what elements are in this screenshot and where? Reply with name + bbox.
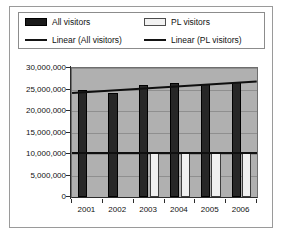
gridline xyxy=(72,68,257,69)
legend-label-linear-pl-visitors: Linear (PL visitors) xyxy=(171,35,242,45)
trendline-linear-all-visitors xyxy=(72,80,257,94)
x-axis-tick-mark xyxy=(102,199,103,203)
legend-item-linear-pl-visitors: Linear (PL visitors) xyxy=(144,31,264,49)
legend-label-all-visitors: All visitors xyxy=(52,17,90,27)
y-axis-tick-mark xyxy=(66,110,71,111)
gridline xyxy=(72,176,257,177)
legend-item-all-visitors: All visitors xyxy=(19,13,144,31)
x-axis-tick-label: 2002 xyxy=(108,205,126,214)
y-axis-tick-label: 5,000,000 xyxy=(30,170,66,179)
y-axis-tick-label: 15,000,000 xyxy=(26,127,66,136)
x-axis-tick-label: 2001 xyxy=(78,205,96,214)
bar-all-visitors xyxy=(108,93,117,197)
gridline xyxy=(72,154,257,155)
chart-panel: All visitors PL visitors Linear (All vis… xyxy=(9,6,273,228)
y-axis-tick-mark xyxy=(66,89,71,90)
bar-pl-visitors xyxy=(181,152,190,197)
y-axis-tick-label: 20,000,000 xyxy=(26,106,66,115)
legend-item-pl-visitors: PL visitors xyxy=(144,13,264,31)
bar-all-visitors xyxy=(78,90,87,197)
legend-row-2: Linear (All visitors) Linear (PL visitor… xyxy=(19,31,264,49)
bar-all-visitors xyxy=(139,85,148,197)
trendline-linear-pl-visitors xyxy=(72,152,257,154)
legend-label-pl-visitors: PL visitors xyxy=(171,17,210,27)
y-axis-tick-mark xyxy=(66,196,71,197)
x-axis-tick-label: 2004 xyxy=(170,205,188,214)
x-axis-tick-mark xyxy=(71,199,72,203)
bar-all-visitors xyxy=(201,84,210,197)
x-axis: 200120022003200420052006 xyxy=(71,203,258,219)
x-axis-tick-mark xyxy=(133,199,134,203)
x-axis-tick-label: 2006 xyxy=(232,205,250,214)
light-bar-swatch-icon xyxy=(144,18,166,26)
y-axis-tick-mark xyxy=(66,175,71,176)
y-axis: 05,000,00010,000,00015,000,00020,000,000… xyxy=(18,53,70,205)
y-axis-tick-label: 25,000,000 xyxy=(26,84,66,93)
bar-pl-visitors xyxy=(211,152,220,197)
y-axis-tick-mark xyxy=(66,67,71,68)
bar-pl-visitors xyxy=(150,152,159,197)
x-axis-tick-label: 2003 xyxy=(139,205,157,214)
dark-line-swatch-icon xyxy=(25,39,47,41)
chart-legend: All visitors PL visitors Linear (All vis… xyxy=(18,12,265,49)
y-axis-tick-label: 10,000,000 xyxy=(26,149,66,158)
chart-page: All visitors PL visitors Linear (All vis… xyxy=(0,0,286,242)
bar-pl-visitors xyxy=(242,152,251,197)
y-axis-tick-label: 30,000,000 xyxy=(26,63,66,72)
x-axis-tick-label: 2005 xyxy=(201,205,219,214)
plot-area xyxy=(71,67,258,198)
x-axis-tick-mark xyxy=(225,199,226,203)
plot-area-wrapper: 05,000,00010,000,00015,000,00020,000,000… xyxy=(18,53,265,221)
x-axis-tick-mark xyxy=(256,199,257,203)
bar-all-visitors xyxy=(232,82,241,197)
legend-row-1: All visitors PL visitors xyxy=(19,13,264,31)
y-axis-tick-mark xyxy=(66,132,71,133)
gridline xyxy=(72,111,257,112)
y-axis-tick-mark xyxy=(66,153,71,154)
legend-label-linear-all-visitors: Linear (All visitors) xyxy=(52,35,122,45)
dark-bar-swatch-icon xyxy=(25,18,47,26)
gridline xyxy=(72,133,257,134)
bar-all-visitors xyxy=(170,83,179,197)
x-axis-tick-mark xyxy=(194,199,195,203)
legend-item-linear-all-visitors: Linear (All visitors) xyxy=(19,31,144,49)
x-axis-tick-mark xyxy=(164,199,165,203)
dark-line-swatch-icon xyxy=(144,39,166,41)
